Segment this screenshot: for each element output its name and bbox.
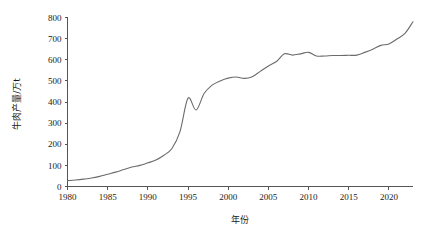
- x-tick-label: 1990: [139, 192, 158, 202]
- y-tick-label: 100: [48, 161, 62, 171]
- x-tick-label: 2010: [300, 192, 319, 202]
- y-tick-label: 500: [48, 76, 62, 86]
- x-tick-label: 2015: [340, 192, 359, 202]
- y-axis-tick-labels: 0100200300400500600700800: [48, 13, 62, 192]
- y-tick-label: 200: [48, 139, 62, 149]
- x-axis-tick-labels: 198019851990199520002005201020152020: [59, 192, 399, 202]
- x-tick-label: 1980: [59, 192, 78, 202]
- y-tick-label: 600: [48, 55, 62, 65]
- x-tick-label: 1995: [179, 192, 198, 202]
- x-axis-title: 年份: [231, 214, 249, 225]
- x-tick-label: 2020: [380, 192, 399, 202]
- x-tick-label: 2000: [219, 192, 238, 202]
- series-line-beef-production: [68, 22, 414, 181]
- y-tick-label: 300: [48, 118, 62, 128]
- y-tick-label: 400: [48, 97, 62, 107]
- x-tick-label: 1985: [99, 192, 118, 202]
- y-tick-label: 800: [48, 13, 62, 23]
- data-series: [68, 22, 414, 181]
- chart-container: 0100200300400500600700800 19801985199019…: [0, 0, 424, 232]
- x-tick-label: 2005: [259, 192, 278, 202]
- axes: 0100200300400500600700800 19801985199019…: [48, 13, 413, 202]
- line-chart: 0100200300400500600700800 19801985199019…: [0, 0, 424, 232]
- y-tick-label: 0: [57, 182, 62, 192]
- y-axis-title: 牛肉产量/万t: [11, 78, 22, 130]
- y-tick-label: 700: [48, 34, 62, 44]
